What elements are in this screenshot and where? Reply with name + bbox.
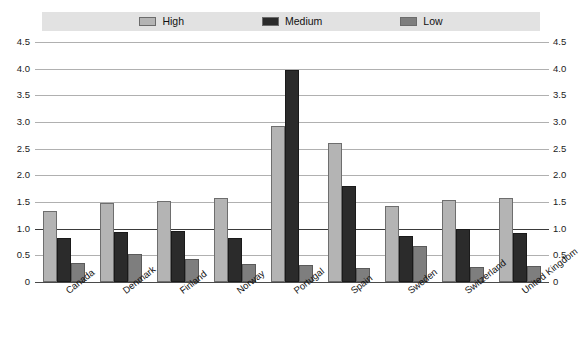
legend-swatch-icon: [139, 17, 156, 26]
y-axis-tick-left: 0: [25, 277, 30, 287]
plot-wrapper: 4.54.54.04.03.53.53.03.02.52.52.02.01.51…: [0, 38, 583, 286]
bar-high[interactable]: [271, 126, 285, 282]
y-axis-tick-right: 2.5: [553, 144, 566, 154]
y-axis-tick-right: 1.5: [553, 197, 566, 207]
y-axis-tick-left: 2.0: [17, 170, 30, 180]
bar-medium[interactable]: [57, 238, 71, 282]
y-axis-tick-right: 0: [553, 277, 558, 287]
bar-group: [149, 42, 206, 282]
y-axis-tick-left: 1.0: [17, 224, 30, 234]
bar-medium[interactable]: [114, 232, 128, 282]
legend-label: Medium: [285, 16, 322, 27]
bar-group: [321, 42, 378, 282]
bar-group: [378, 42, 435, 282]
bar-high[interactable]: [328, 143, 342, 282]
y-axis-tick-left: 1.5: [17, 197, 30, 207]
bar-high[interactable]: [43, 211, 57, 282]
bar-group: [92, 42, 149, 282]
bar-group: [492, 42, 549, 282]
bar-medium[interactable]: [399, 236, 413, 282]
y-axis-tick-left: 4.0: [17, 64, 30, 74]
bar-high[interactable]: [100, 203, 114, 282]
bar-group: [35, 42, 92, 282]
bar-medium[interactable]: [171, 231, 185, 282]
y-axis-tick-left: 0.5: [17, 250, 30, 260]
y-axis-tick-left: 4.5: [17, 37, 30, 47]
legend-item-low[interactable]: Low: [400, 16, 442, 27]
x-axis-label-cell: United Kingdom: [492, 286, 549, 344]
legend-label: High: [162, 16, 184, 27]
x-axis-label-cell: Spain: [321, 286, 378, 344]
y-axis-tick-left: 3.5: [17, 90, 30, 100]
x-axis-labels: CanadaDenmarkFinlandNorwayPortugalSpainS…: [35, 286, 549, 344]
bar-group: [263, 42, 320, 282]
legend-swatch-icon: [400, 17, 417, 26]
x-axis-label-cell: Norway: [206, 286, 263, 344]
y-axis-tick-right: 2.0: [553, 170, 566, 180]
legend-label: Low: [423, 16, 442, 27]
y-axis-tick-left: 2.5: [17, 144, 30, 154]
bar-medium[interactable]: [513, 233, 527, 282]
y-axis-tick-right: 1.0: [553, 224, 566, 234]
x-axis-label-cell: Sweden: [378, 286, 435, 344]
bar-medium[interactable]: [342, 186, 356, 282]
bar-medium[interactable]: [228, 238, 242, 282]
y-axis-tick-right: 4.5: [553, 37, 566, 47]
bar-group: [206, 42, 263, 282]
x-axis-label-cell: Portugal: [263, 286, 320, 344]
x-axis-label-cell: Switzerland: [435, 286, 492, 344]
bar-medium[interactable]: [285, 70, 299, 282]
legend-swatch-icon: [262, 17, 279, 26]
legend-item-medium[interactable]: Medium: [262, 16, 322, 27]
y-axis-tick-right: 3.0: [553, 117, 566, 127]
y-axis-tick-left: 3.0: [17, 117, 30, 127]
bar-chart: HighMediumLow 4.54.54.04.03.53.53.03.02.…: [0, 0, 583, 344]
bar-group: [435, 42, 492, 282]
bar-high[interactable]: [442, 200, 456, 282]
bar-high[interactable]: [214, 198, 228, 282]
x-axis-label-cell: Finland: [149, 286, 206, 344]
bar-high[interactable]: [385, 206, 399, 282]
y-axis-tick-right: 4.0: [553, 64, 566, 74]
x-axis-label-cell: Canada: [35, 286, 92, 344]
bar-high[interactable]: [157, 201, 171, 282]
bar-medium[interactable]: [456, 229, 470, 282]
plot-area: [35, 42, 549, 282]
chart-legend: HighMediumLow: [42, 12, 540, 31]
legend-item-high[interactable]: High: [139, 16, 184, 27]
x-axis-label-cell: Denmark: [92, 286, 149, 344]
bar-groups: [35, 42, 549, 282]
y-axis-tick-right: 3.5: [553, 90, 566, 100]
